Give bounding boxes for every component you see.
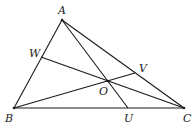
vertex-c-dot <box>183 107 186 110</box>
label-o: O <box>99 85 108 98</box>
cevian-wc <box>41 57 184 108</box>
side-ab <box>14 20 62 108</box>
label-b: B <box>4 112 13 125</box>
vertex-b-dot <box>13 107 16 110</box>
cevian-au <box>62 20 128 108</box>
label-w: W <box>29 47 42 60</box>
side-ac <box>62 20 184 108</box>
label-v: V <box>139 62 148 75</box>
label-a: A <box>57 4 66 17</box>
cevian-bv <box>14 73 135 108</box>
vertex-a-dot <box>61 19 64 22</box>
point-o-dot <box>107 80 110 83</box>
label-u: U <box>124 112 134 125</box>
label-c: C <box>183 112 192 125</box>
triangle-diagram: A B C U V W O <box>0 0 196 130</box>
